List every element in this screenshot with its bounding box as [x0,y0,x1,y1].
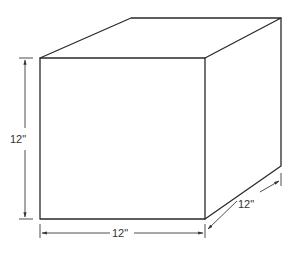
depth-label: 12" [238,198,254,210]
cube-front-face [40,58,205,219]
depth-arrow-back [260,181,279,192]
width-label: 12" [112,227,128,239]
depth-arrow-front [208,201,237,229]
cube-top-face [40,18,281,58]
height-label: 12" [10,133,26,145]
cube [40,18,281,219]
depth-dimension: 12" [208,173,281,229]
cube-diagram: 12" 12" 12" [0,0,301,255]
width-dimension: 12" [40,224,205,239]
height-dimension: 12" [10,58,33,219]
cube-right-face [205,18,281,219]
